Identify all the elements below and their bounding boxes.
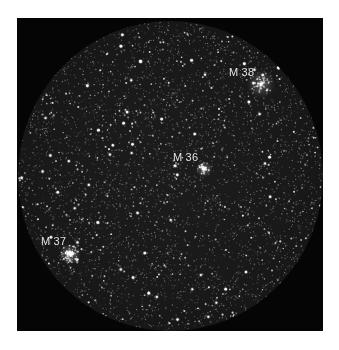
cluster-label-m36: M 36 (173, 152, 198, 163)
starfield (18, 21, 323, 331)
telescope-field-of-view (18, 21, 323, 331)
cluster-label-m37: M 37 (41, 236, 66, 247)
image-frame (17, 18, 323, 331)
cluster-label-m38: M 38 (229, 67, 254, 78)
